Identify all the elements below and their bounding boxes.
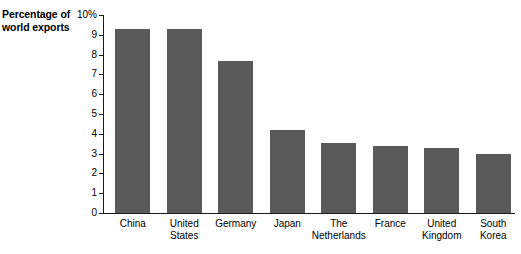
tick-mark (99, 154, 103, 155)
tick-mark (99, 74, 103, 75)
bar-rect[interactable] (167, 29, 202, 213)
bar-rect[interactable] (115, 29, 150, 213)
tick-mark (99, 114, 103, 115)
tick-mark (99, 15, 103, 16)
tick-mark (99, 35, 103, 36)
bar-united-kingdom[interactable]: United Kingdom (424, 15, 459, 213)
tick-label: 3 (91, 149, 97, 159)
bar-japan[interactable]: Japan (270, 15, 305, 213)
bar-rect[interactable] (321, 143, 356, 213)
y-axis-title-line-1: Percentage of (2, 8, 78, 21)
bar-germany[interactable]: Germany (218, 15, 253, 213)
bar-china[interactable]: China (115, 15, 150, 213)
tick-mark (99, 173, 103, 174)
tick-mark (99, 94, 103, 95)
bar-rect[interactable] (373, 146, 408, 213)
tick-mark (99, 213, 103, 214)
tick-mark (99, 55, 103, 56)
bar-rect[interactable] (218, 61, 253, 213)
tick-label: 1 (91, 188, 97, 198)
x-axis-line (103, 213, 515, 214)
tick-label: 6 (91, 89, 97, 99)
plot-area: 012345678910% ChinaUnited StatesGermanyJ… (103, 15, 515, 213)
x-axis-category-label: South Korea (462, 218, 521, 242)
bar-series: ChinaUnited StatesGermanyJapanThe Nether… (104, 15, 515, 213)
bar-the-netherlands[interactable]: The Netherlands (321, 15, 356, 213)
tick-label: 0 (91, 208, 97, 218)
tick-label: 4 (91, 129, 97, 139)
bar-united-states[interactable]: United States (167, 15, 202, 213)
bar-chart: Percentage of world exports 012345678910… (0, 0, 521, 254)
bar-rect[interactable] (270, 130, 305, 213)
bar-south-korea[interactable]: South Korea (476, 15, 511, 213)
bar-france[interactable]: France (373, 15, 408, 213)
tick-mark (99, 134, 103, 135)
bar-rect[interactable] (476, 154, 511, 213)
y-axis-title-line-2: world exports (2, 21, 78, 34)
tick-mark (99, 193, 103, 194)
tick-label: 2 (91, 168, 97, 178)
bar-rect[interactable] (424, 148, 459, 213)
tick-label: 8 (91, 50, 97, 60)
tick-label: 9 (91, 30, 97, 40)
tick-label: 7 (91, 69, 97, 79)
y-axis-title: Percentage of world exports (2, 8, 78, 33)
tick-label: 5 (91, 109, 97, 119)
tick-label: 10% (77, 10, 97, 20)
